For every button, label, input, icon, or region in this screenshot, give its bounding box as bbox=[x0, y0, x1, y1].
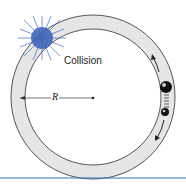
radius-label: R bbox=[51, 91, 59, 102]
collision-label: Collision bbox=[64, 55, 102, 66]
large-ball-icon bbox=[160, 81, 172, 93]
ring-diagram bbox=[0, 0, 186, 192]
small-ball-icon bbox=[161, 108, 169, 116]
center-point bbox=[92, 97, 95, 100]
